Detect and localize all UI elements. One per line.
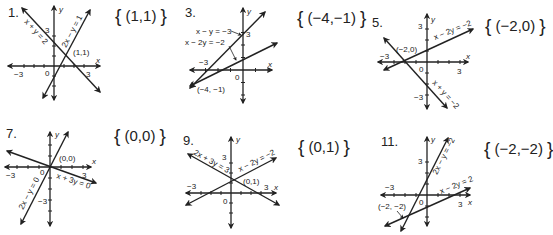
answer-set-problem-9: { (0,1) } bbox=[298, 135, 350, 157]
open-brace: { bbox=[298, 136, 304, 157]
problem-number: 3. bbox=[185, 5, 196, 20]
axis-label-x: x bbox=[467, 198, 473, 207]
open-brace: { bbox=[114, 125, 120, 146]
tick-label: 3 bbox=[458, 200, 463, 209]
pointer-arrow bbox=[229, 46, 236, 60]
axis-label-x: x bbox=[91, 157, 97, 166]
graph-problem-3: 3. −3 3 0 x y x − y = −3 x − 2y = −2 (−4… bbox=[185, 5, 277, 103]
close-brace: } bbox=[160, 125, 166, 146]
axis-label-x: x bbox=[273, 183, 279, 192]
open-brace: { bbox=[485, 15, 491, 36]
tick-label: 0 bbox=[235, 73, 240, 82]
intersection-label: (0,0) bbox=[59, 154, 76, 163]
answer-value: (−2,0) bbox=[496, 17, 536, 34]
axis-label-y: y bbox=[54, 130, 60, 139]
pointer-arrow bbox=[231, 31, 241, 35]
graph-problem-9: 9. −3 3 3 0 x y 2x + 3y = 3 x − 2y = −2 … bbox=[183, 133, 279, 228]
axis-label-y: y bbox=[58, 5, 64, 14]
close-brace: } bbox=[344, 136, 350, 157]
tick-label: 3 bbox=[418, 157, 423, 166]
answer-set-problem-5: { (−2,0) } bbox=[485, 14, 546, 36]
open-brace: { bbox=[297, 7, 303, 28]
graph-problem-7: 7. −3 3 −3 0 x y 2x − y = 0 x + 3y = 0 (… bbox=[5, 126, 97, 226]
tick-label: −3 bbox=[187, 182, 197, 191]
equation-label: x − 2y = −2 bbox=[185, 38, 225, 47]
intersection-label: (0,1) bbox=[243, 177, 260, 186]
close-brace: } bbox=[547, 138, 553, 159]
tick-label: 3 bbox=[264, 183, 269, 192]
axis-label-x: x bbox=[267, 60, 273, 69]
close-brace: } bbox=[360, 7, 366, 28]
answer-value: (−2,−2) bbox=[495, 140, 543, 157]
open-brace: { bbox=[484, 138, 490, 159]
tick-label: −3 bbox=[385, 183, 395, 192]
problem-number: 5. bbox=[372, 15, 383, 30]
tick-label: −3 bbox=[414, 93, 424, 102]
tick-label: 3 bbox=[457, 67, 462, 76]
problem-number: 1. bbox=[8, 5, 19, 20]
close-brace: } bbox=[539, 15, 545, 36]
answer-set-problem-3: { (−4,−1) } bbox=[297, 6, 366, 28]
axis-label-y: y bbox=[246, 7, 252, 16]
answer-value: (−4,−1) bbox=[308, 9, 356, 26]
axis-label-x: x bbox=[465, 52, 471, 61]
tick-label: 0 bbox=[45, 69, 50, 78]
tick-label: −3 bbox=[14, 70, 24, 79]
tick-label: −3 bbox=[38, 197, 48, 206]
answer-value: (0,1) bbox=[309, 138, 340, 155]
axis-label-y: y bbox=[235, 135, 241, 144]
axis-label-y: y bbox=[430, 15, 436, 24]
answer-value: (0,0) bbox=[125, 127, 156, 144]
pointer-arrow bbox=[397, 211, 403, 218]
open-brace: { bbox=[115, 5, 121, 26]
intersection-label: (−2,0) bbox=[396, 45, 417, 54]
answer-set-problem-7: { (0,0) } bbox=[114, 124, 166, 146]
close-brace: } bbox=[161, 5, 167, 26]
intersection-label: (−2, −2) bbox=[378, 202, 406, 211]
graph-problem-1: 1. −3 3 3 0 x y x + y = 2 2x − y = 1 (1,… bbox=[8, 5, 101, 100]
line-x-minus-y-eq-neg3 bbox=[190, 12, 265, 88]
tick-label: 0 bbox=[223, 197, 228, 206]
problem-number: 9. bbox=[183, 133, 194, 148]
axis-label-x: x bbox=[95, 56, 101, 65]
answer-value: (1,1) bbox=[126, 7, 157, 24]
tick-label: −3 bbox=[6, 171, 16, 180]
intersection-label: (−4, −1) bbox=[197, 85, 225, 94]
problem-number: 11. bbox=[381, 134, 398, 149]
tick-label: 3 bbox=[418, 22, 423, 31]
graph-problem-5: 5. −3 3 3 −3 0 x y x − 2y = −2 x + y = −… bbox=[372, 14, 473, 111]
tick-label: 0 bbox=[419, 198, 424, 207]
tick-label: 0 bbox=[419, 65, 424, 74]
answer-set-problem-11: { (−2,−2) } bbox=[484, 137, 553, 159]
problem-number: 7. bbox=[6, 126, 17, 141]
axis-label-y: y bbox=[430, 135, 436, 144]
tick-label: −3 bbox=[199, 58, 209, 67]
tick-label: −3 bbox=[380, 52, 390, 61]
equation-label: x − 2y = 2 bbox=[438, 174, 474, 196]
intersection-label: (1,1) bbox=[73, 48, 90, 57]
tick-label: 3 bbox=[222, 153, 227, 162]
graph-problem-11: 11. −3 3 3 0 x y 2x − y = −2 x − 2y = 2 … bbox=[378, 134, 475, 231]
answer-set-problem-1: { (1,1) } bbox=[115, 4, 167, 26]
tick-label: 0 bbox=[40, 168, 45, 177]
equation-label: x − y = −3 bbox=[196, 27, 232, 36]
